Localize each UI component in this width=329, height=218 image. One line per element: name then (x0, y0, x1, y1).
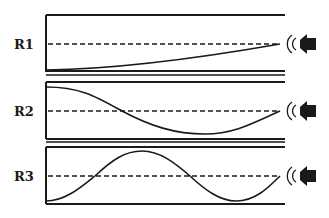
tube-r3: R3 (14, 142, 285, 204)
speaker-icon (287, 34, 316, 54)
tube-label-r3: R3 (14, 169, 34, 184)
standing-wave-curve (46, 44, 280, 70)
tube-r2: R2 (14, 75, 285, 139)
tube-r1: R1 (14, 15, 285, 72)
resonance-tubes-diagram: R1 R2 R3 (0, 0, 329, 218)
tube-label-r1: R1 (14, 37, 34, 52)
speaker-icon (287, 166, 316, 186)
tube-label-r2: R2 (14, 104, 34, 119)
speaker-icon (287, 101, 316, 121)
